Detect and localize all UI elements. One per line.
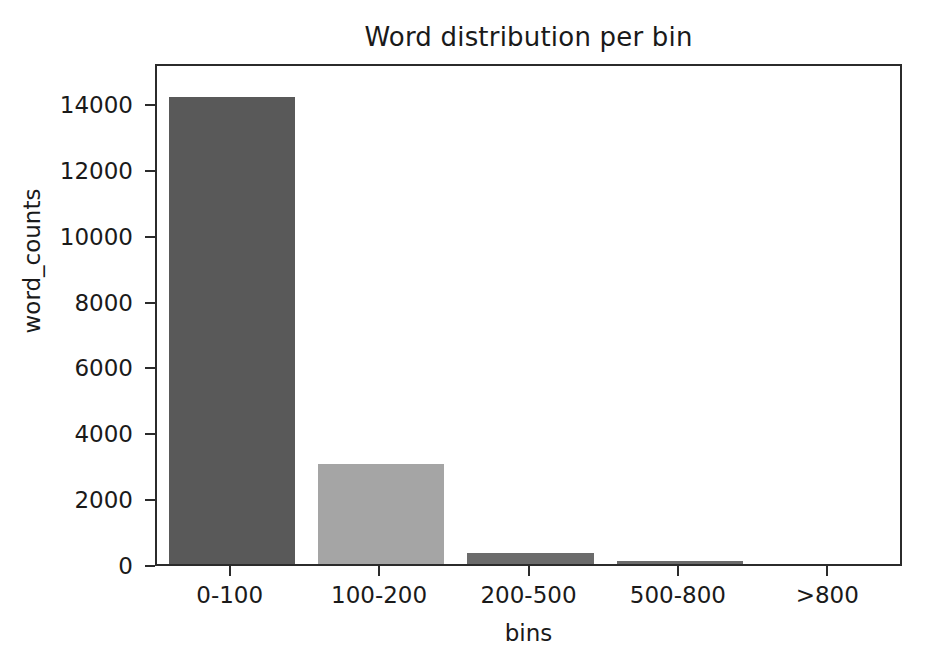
chart-figure: Word distribution per bin 02000400060008…: [0, 0, 951, 665]
x-axis-label: bins: [155, 620, 902, 646]
x-tick-mark: [826, 566, 828, 576]
x-tick-mark: [378, 566, 380, 576]
x-tick-label: >800: [727, 582, 927, 608]
x-axis: 0-100100-200200-500500-800>800: [0, 0, 951, 665]
x-tick-mark: [528, 566, 530, 576]
x-tick-mark: [677, 566, 679, 576]
x-tick-mark: [229, 566, 231, 576]
